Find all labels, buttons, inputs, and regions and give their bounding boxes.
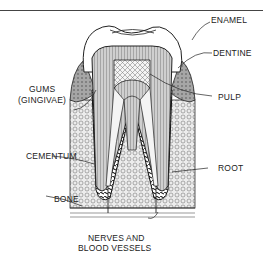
tooth-diagram bbox=[0, 0, 263, 262]
label-gums-line2: (GINGIVAE) bbox=[18, 95, 66, 105]
label-cementum: CEMENTUM bbox=[26, 151, 77, 161]
label-nerves-line1: NERVES AND bbox=[88, 233, 145, 243]
label-enamel: ENAMEL bbox=[211, 15, 247, 25]
label-dentine: DENTINE bbox=[213, 48, 252, 58]
label-gums-line1: GUMS bbox=[29, 84, 55, 94]
label-root: ROOT bbox=[218, 163, 243, 173]
label-nerves-line2: BLOOD VESSELS bbox=[78, 243, 151, 253]
label-bone: BONE bbox=[54, 194, 79, 204]
label-pulp: PULP bbox=[218, 92, 241, 102]
